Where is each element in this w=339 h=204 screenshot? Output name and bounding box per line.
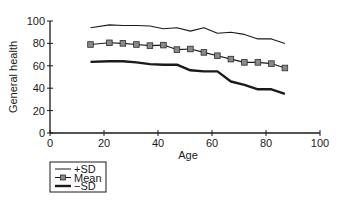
square-marker-icon	[282, 65, 288, 71]
legend-square-marker-icon	[61, 175, 66, 180]
series-minus-sd-line	[91, 61, 285, 94]
y-axis: 020406080100	[27, 15, 53, 139]
y-tick-label: 40	[33, 82, 45, 94]
y-tick-label: 0	[39, 127, 45, 139]
x-tick-label: 80	[260, 137, 272, 149]
x-tick-label: 60	[206, 137, 218, 149]
square-marker-icon	[120, 41, 126, 47]
y-axis-title: General health	[7, 41, 19, 113]
square-marker-icon	[255, 60, 261, 66]
square-marker-icon	[269, 61, 275, 67]
y-tick-label: 20	[33, 105, 45, 117]
x-tick-label: 100	[311, 137, 329, 149]
line-chart: 020406080100 020406080100 General health…	[0, 0, 339, 204]
legend: +SD Mean −SD	[50, 162, 106, 192]
square-marker-icon	[242, 60, 248, 66]
series-plus-sd-line	[91, 25, 285, 44]
x-tick-label: 0	[47, 137, 53, 149]
square-marker-icon	[215, 53, 221, 59]
square-marker-icon	[147, 43, 153, 49]
square-marker-icon	[88, 42, 94, 48]
x-axis: 020406080100	[47, 130, 329, 149]
y-tick-label: 60	[33, 60, 45, 72]
square-marker-icon	[161, 42, 167, 48]
y-tick-label: 80	[33, 37, 45, 49]
plot-series	[88, 25, 288, 94]
x-tick-label: 20	[98, 137, 110, 149]
x-axis-title: Age	[178, 149, 198, 161]
square-marker-icon	[228, 56, 234, 62]
x-tick-label: 40	[152, 137, 164, 149]
square-marker-icon	[134, 42, 140, 48]
legend-label: −SD	[74, 180, 96, 192]
y-tick-label: 100	[27, 15, 45, 27]
square-marker-icon	[201, 50, 207, 56]
square-marker-icon	[174, 47, 180, 53]
square-marker-icon	[107, 40, 113, 46]
square-marker-icon	[188, 46, 194, 52]
